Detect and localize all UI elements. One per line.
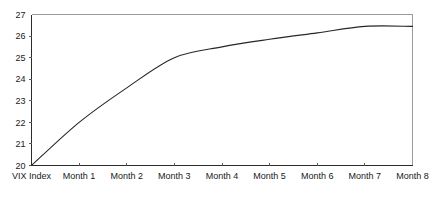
y-tick-label: 20 [15,161,25,171]
chart-background [0,0,440,198]
x-tick-label: Month 3 [158,171,191,181]
line-chart: 2021222324252627 VIX IndexMonth 1Month 2… [0,0,440,198]
y-tick-label: 21 [15,139,25,149]
y-tick-label: 27 [15,10,25,20]
y-tick-label: 24 [15,74,25,84]
y-tick-label: 23 [15,96,25,106]
x-tick-label: Month 6 [301,171,334,181]
x-tick-label: Month 4 [206,171,239,181]
x-tick-label: Month 7 [349,171,382,181]
x-tick-label: VIX Index [12,171,52,181]
y-tick-label: 22 [15,118,25,128]
x-tick-label: Month 1 [63,171,96,181]
y-tick-label: 26 [15,31,25,41]
x-tick-label: Month 5 [253,171,286,181]
x-tick-label: Month 2 [110,171,143,181]
x-tick-label: Month 8 [396,171,429,181]
y-tick-label: 25 [15,53,25,63]
chart-canvas: 2021222324252627 VIX IndexMonth 1Month 2… [0,0,440,198]
